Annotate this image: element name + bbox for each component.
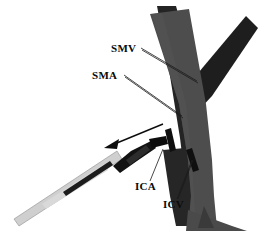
figure-canvas: SMV SMA ICA ICV: [0, 0, 258, 231]
label-sma: SMA: [92, 69, 117, 81]
label-icv: ICV: [163, 198, 184, 210]
label-ica: ICA: [135, 180, 156, 192]
anatomical-figure: SMV SMA ICA ICV: [0, 0, 258, 231]
label-smv: SMV: [111, 42, 136, 54]
figure-background: [0, 0, 258, 231]
